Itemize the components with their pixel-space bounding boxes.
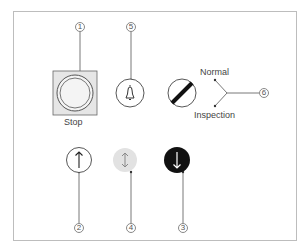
callout-1: 1 [75,22,85,32]
callout-5: 5 [126,22,136,32]
callout-4: 4 [126,223,136,233]
up-down-indicator [113,148,137,172]
callout-3: 3 [178,223,188,233]
stop-button [53,71,97,115]
stop-label: Stop [64,117,83,127]
normal-label: Normal [200,67,229,77]
up-button [67,148,92,173]
mode-connector [215,80,259,106]
callout-2: 2 [74,223,84,233]
callout-6: 6 [259,88,269,98]
down-button [164,147,190,173]
selector-switch [168,79,196,107]
inspection-label: Inspection [194,110,235,120]
leader-lines [79,31,183,224]
diagram-graphics [0,0,306,251]
bell-button [116,79,144,107]
